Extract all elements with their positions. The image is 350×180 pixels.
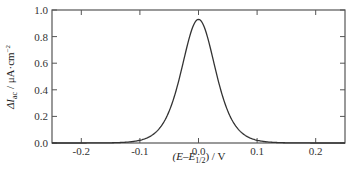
chart: -0.2-0.10.00.10.20.00.20.40.60.81.0 (E–E… xyxy=(0,0,350,180)
x-tick-label: 0.1 xyxy=(250,145,264,157)
plot-border xyxy=(52,10,345,143)
plot-frame xyxy=(52,10,345,143)
y-tick-label: 0.4 xyxy=(34,84,48,96)
data-curve xyxy=(52,19,345,143)
x-tick-label: -0.2 xyxy=(73,145,90,157)
y-tick-label: 0.8 xyxy=(34,31,48,43)
axis-ticks xyxy=(52,10,345,143)
x-tick-label: 0.2 xyxy=(309,145,323,157)
x-tick-label: -0.1 xyxy=(131,145,148,157)
y-tick-label: 0.2 xyxy=(34,110,48,122)
y-tick-label: 0.0 xyxy=(34,137,48,149)
y-tick-label: 0.6 xyxy=(34,57,48,69)
y-axis-label: ΔIac / μA·cm−2 xyxy=(4,44,19,110)
y-tick-label: 1.0 xyxy=(34,4,48,16)
